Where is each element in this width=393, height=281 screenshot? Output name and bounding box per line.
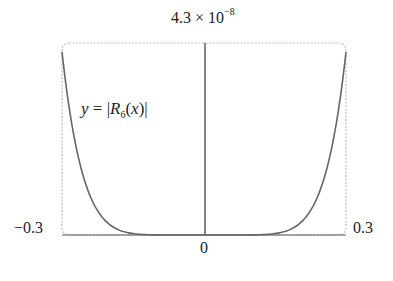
function-label: y = |R6(x)|	[81, 99, 148, 120]
func-eq: = |	[89, 99, 111, 118]
func-x: x	[131, 99, 139, 118]
x-max-label: 0.3	[353, 219, 373, 237]
y-max-mantissa: 4.3 × 10	[171, 9, 224, 26]
plot-area	[0, 0, 393, 281]
viewing-window-frame	[62, 43, 346, 235]
func-y: y	[81, 99, 89, 118]
y-max-exponent: −8	[224, 6, 235, 17]
x-center-label: 0	[200, 239, 208, 257]
func-close: )|	[139, 99, 148, 118]
curve-R6	[62, 52, 346, 235]
func-R: R	[110, 99, 120, 118]
y-max-label: 4.3 × 10−8	[171, 9, 235, 27]
x-min-label: −0.3	[14, 219, 43, 237]
